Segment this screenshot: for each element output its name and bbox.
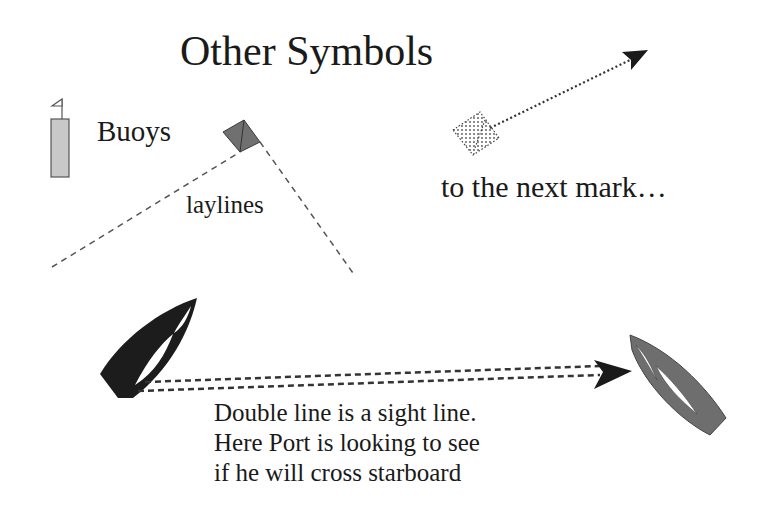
laylines-label: laylines	[186, 192, 264, 217]
starboard-boat-icon	[630, 335, 726, 435]
caption-line: Here Port is looking to see	[214, 428, 480, 458]
sight-line-caption: Double line is a sight line. Here Port i…	[214, 398, 480, 488]
mark-diamond-icon	[223, 120, 260, 152]
buoys-label: Buoys	[97, 117, 171, 146]
buoy-icon	[51, 99, 69, 177]
diagram-canvas: Other Symbols Buoys laylines to the next…	[0, 0, 766, 516]
caption-line: Double line is a sight line.	[214, 398, 480, 428]
next-mark-label: to the next mark…	[441, 172, 667, 202]
dotted-mark-icon	[453, 112, 499, 155]
caption-line: if he will cross starboard	[214, 458, 480, 488]
sight-line	[138, 360, 632, 391]
page-title: Other Symbols	[180, 30, 433, 72]
next-mark-arrow	[490, 50, 648, 128]
